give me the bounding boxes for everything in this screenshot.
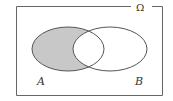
set-a-label: A xyxy=(36,75,45,88)
venn-diagram: Ω A B xyxy=(0,0,173,101)
universe-label: Ω xyxy=(136,2,144,13)
set-b-label: B xyxy=(134,75,143,88)
set-b-ellipse xyxy=(73,27,147,71)
